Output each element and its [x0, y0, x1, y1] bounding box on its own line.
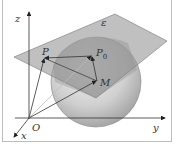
y-axis-label: y [152, 122, 159, 133]
geometry-diagram: z y x O ε P P0 M [0, 0, 181, 152]
point-m-label: M [99, 77, 111, 88]
z-axis-label: z [14, 13, 21, 24]
x-axis-label: x [21, 130, 27, 141]
origin-label: O [32, 122, 40, 133]
point-p-label: P [41, 46, 49, 57]
plane-label: ε [101, 17, 106, 28]
